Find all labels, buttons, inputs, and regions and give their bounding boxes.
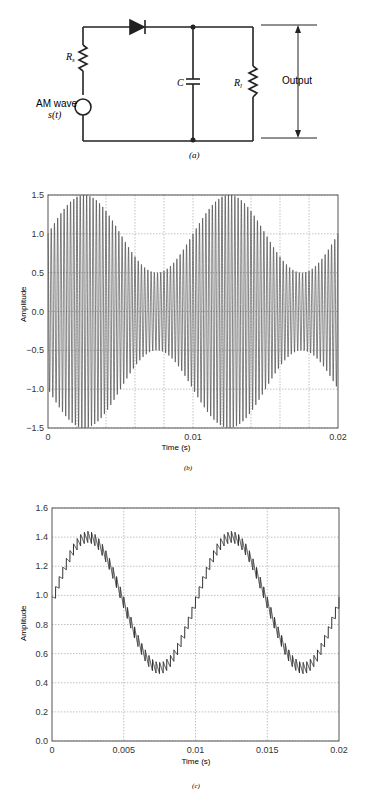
y-tick-label: −1.0: [26, 384, 44, 394]
capacitor-label: C: [177, 77, 184, 88]
y-tick-label: 1.0: [35, 590, 48, 600]
y-tick-label: 1.6: [35, 503, 48, 513]
ac-source-icon: [75, 99, 91, 115]
y-tick-label: 0.6: [35, 649, 48, 659]
x-tick-label: 0.015: [256, 745, 279, 755]
source-resistor: [79, 45, 87, 71]
y-tick-label: 0.5: [31, 268, 44, 278]
x-tick-labels: 00.010.02: [45, 432, 346, 442]
grid-lines: [48, 195, 338, 428]
x-axis-label: Time (s): [161, 443, 190, 452]
y-tick-label: 0.2: [35, 707, 48, 717]
arrow-down-icon: [295, 130, 301, 138]
y-tick-labels: 1.51.00.50.0−0.5−1.0−1.5: [26, 190, 44, 433]
rs-label: Rs: [65, 51, 75, 64]
am-wave-chart: 1.51.00.50.0−0.5−1.0−1.5 00.010.02 Ampli…: [0, 180, 365, 480]
output-label: Output: [282, 75, 312, 86]
source-function-label: s(t): [48, 109, 62, 121]
y-tick-label: −1.5: [26, 423, 44, 433]
source-label: AM wave: [36, 98, 78, 109]
y-tick-label: −0.5: [26, 345, 44, 355]
envelope-detector-circuit: Rs AM wave s(t) C Rl Output (a): [0, 0, 365, 175]
x-tick-labels: 00.0050.010.0150.02: [49, 745, 347, 755]
y-axis-label: Amplitude: [19, 286, 28, 322]
circuit-diagram: Rs AM wave s(t) C Rl Output (a): [0, 0, 365, 175]
caption-a: (a): [189, 150, 200, 160]
x-tick-label: 0.02: [330, 745, 348, 755]
load-resistor: [249, 66, 257, 97]
y-tick-label: 1.2: [35, 561, 48, 571]
y-tick-label: 0.4: [35, 678, 48, 688]
caption-c: (c): [192, 782, 200, 790]
y-tick-label: 1.0: [31, 229, 44, 239]
x-axis-label: Time (s): [181, 757, 210, 766]
y-tick-label: 1.4: [35, 532, 48, 542]
plot-c: 1.61.41.21.00.80.60.40.20.0 00.0050.010.…: [0, 495, 365, 799]
x-tick-label: 0: [45, 432, 50, 442]
y-tick-label: 1.5: [31, 190, 44, 200]
diode-icon: [130, 20, 144, 34]
y-tick-labels: 1.61.41.21.00.80.60.40.20.0: [35, 503, 48, 746]
arrow-up-icon: [295, 25, 301, 33]
x-tick-label: 0: [49, 745, 54, 755]
y-tick-label: 0.0: [35, 736, 48, 746]
caption-b: (b): [184, 464, 193, 472]
y-axis-label: Amplitude: [19, 605, 28, 641]
rl-label: Rl: [233, 77, 242, 90]
x-tick-label: 0.01: [184, 432, 202, 442]
plot-b: 1.51.00.50.0−0.5−1.0−1.5 00.010.02 Ampli…: [0, 180, 365, 480]
x-tick-label: 0.005: [112, 745, 135, 755]
x-tick-label: 0.02: [329, 432, 347, 442]
y-tick-label: 0.8: [35, 620, 48, 630]
x-tick-label: 0.01: [187, 745, 205, 755]
detector-output-chart: 1.61.41.21.00.80.60.40.20.0 00.0050.010.…: [0, 495, 365, 799]
y-tick-label: 0.0: [31, 307, 44, 317]
